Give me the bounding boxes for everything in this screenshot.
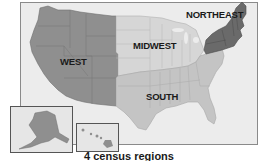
alaska-inset xyxy=(10,106,73,153)
label-midwest: MIDWEST xyxy=(133,40,176,51)
label-northeast: NORTHEAST xyxy=(186,9,243,20)
label-west: WEST xyxy=(60,56,87,67)
alaska-shape xyxy=(11,107,72,152)
hawaii-inset xyxy=(76,123,119,152)
hawaii-shape xyxy=(77,124,118,151)
label-south: SOUTH xyxy=(146,91,178,102)
map-caption: 4 census regions xyxy=(0,150,258,161)
